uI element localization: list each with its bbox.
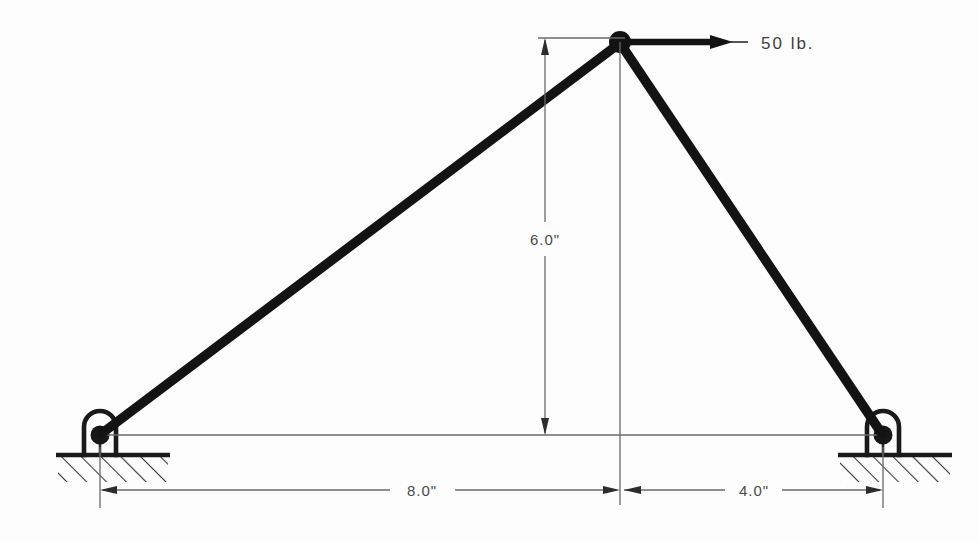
down-arrow-icon (541, 418, 549, 435)
hatched-ground-icon (838, 455, 952, 482)
right-support (838, 411, 952, 482)
right-span-label: 4.0" (739, 482, 769, 499)
truss-diagram-svg: 50 lb. 6.0" 8.0" (0, 0, 978, 542)
left-span-label: 8.0" (407, 482, 437, 499)
left-arrow-icon (624, 486, 641, 494)
up-arrow-icon (541, 38, 549, 55)
right-arrow-icon (710, 35, 733, 49)
left-arrow-icon (100, 486, 117, 494)
span-dimensions: 8.0" 4.0" (100, 447, 883, 508)
load-arrow-group (620, 35, 748, 49)
member-right (620, 43, 882, 434)
load-label: 50 lb. (761, 34, 815, 53)
truss-members (101, 43, 882, 434)
hatched-ground-icon (56, 455, 170, 482)
right-arrow-icon (866, 486, 883, 494)
engineering-drawing-canvas: 50 lb. 6.0" 8.0" (0, 0, 978, 542)
right-arrow-icon (603, 486, 620, 494)
height-label: 6.0" (530, 231, 560, 248)
